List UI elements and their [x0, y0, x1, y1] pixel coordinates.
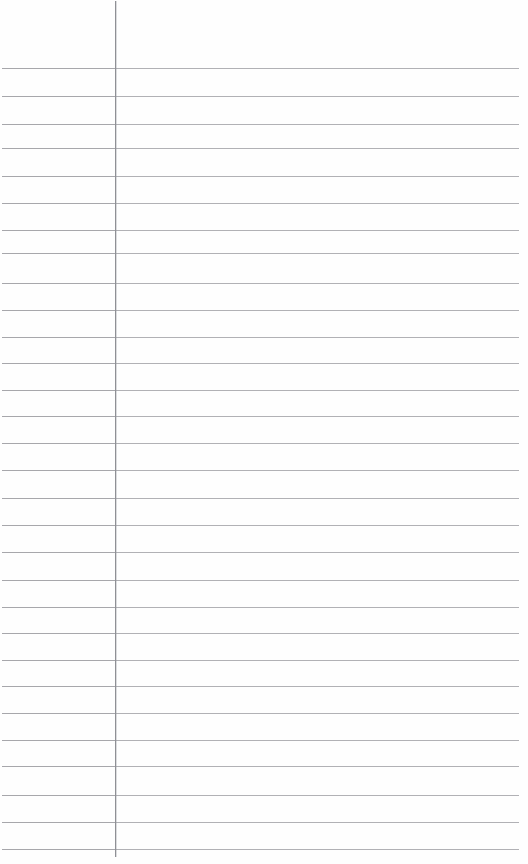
notebook-page: [0, 0, 528, 864]
body-writing-area[interactable]: [116, 68, 519, 849]
ruled-line: [2, 849, 115, 850]
ruled-line: [115, 849, 519, 850]
left-margin-writing-area[interactable]: [0, 68, 115, 849]
